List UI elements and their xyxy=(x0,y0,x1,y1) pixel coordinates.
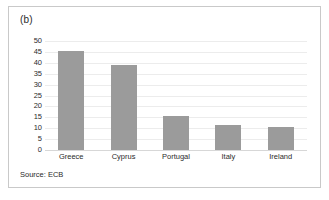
y-axis-tick-label: 0 xyxy=(38,146,42,154)
bar xyxy=(215,125,241,150)
bar-slot xyxy=(202,41,254,150)
y-axis-tick-label: 15 xyxy=(34,114,42,122)
chart-figure: (b) 05101520253035404550 GreeceCyprusPor… xyxy=(0,0,329,200)
bar xyxy=(111,65,137,150)
x-axis: GreeceCyprusPortugalItalyIreland xyxy=(45,152,307,166)
y-axis-tick-label: 45 xyxy=(34,48,42,56)
bar-slot xyxy=(255,41,307,150)
plot-area xyxy=(45,41,307,150)
y-axis-tick-label: 50 xyxy=(34,37,42,45)
x-axis-tick-label: Cyprus xyxy=(98,152,150,166)
y-axis-tick-label: 10 xyxy=(34,124,42,132)
y-axis: 05101520253035404550 xyxy=(22,41,42,150)
y-axis-tick-label: 35 xyxy=(34,70,42,78)
x-axis-tick-label: Ireland xyxy=(255,152,307,166)
y-axis-tick-label: 30 xyxy=(34,81,42,89)
bar-slot xyxy=(45,41,97,150)
bar xyxy=(163,116,189,150)
x-axis-tick-label: Italy xyxy=(202,152,254,166)
x-axis-tick-label: Portugal xyxy=(150,152,202,166)
source-note: Source: ECB xyxy=(20,170,63,179)
bar xyxy=(58,51,84,150)
panel-label: (b) xyxy=(20,14,33,25)
y-axis-tick-label: 5 xyxy=(38,135,42,143)
x-axis-tick-label: Greece xyxy=(45,152,97,166)
y-axis-tick-label: 20 xyxy=(34,103,42,111)
bar xyxy=(268,127,294,150)
y-axis-tick-label: 25 xyxy=(34,92,42,100)
bar-slot xyxy=(98,41,150,150)
bar-series xyxy=(45,41,307,150)
y-axis-tick-label: 40 xyxy=(34,59,42,67)
bar-slot xyxy=(150,41,202,150)
